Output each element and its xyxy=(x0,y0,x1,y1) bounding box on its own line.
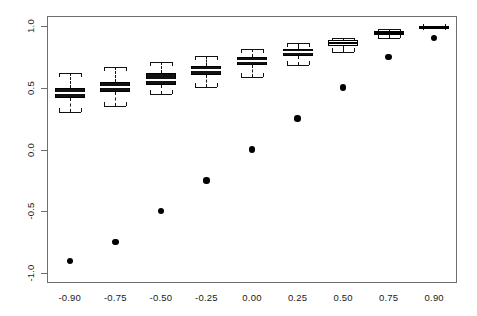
boxplot-median xyxy=(55,92,85,94)
boxplot-lower-cap xyxy=(150,94,172,95)
boxplot-lower-whisker xyxy=(252,65,253,77)
boxplot-lower-whisker xyxy=(161,85,162,95)
y-axis-tick xyxy=(41,88,47,89)
boxplot-lower-cap xyxy=(332,52,354,53)
boxplot-upper-cap-foot xyxy=(150,62,151,66)
boxplot-upper-cap xyxy=(59,73,81,74)
y-axis-tick xyxy=(41,150,47,151)
y-axis-tick xyxy=(41,211,47,212)
y-axis-tick-label: 0.0 xyxy=(24,133,38,167)
boxplot-upper-whisker xyxy=(161,62,162,73)
boxplot-median xyxy=(374,32,404,34)
data-point--0.90 xyxy=(67,258,73,264)
boxplot-upper-cap xyxy=(378,29,400,30)
boxplot-upper-cap xyxy=(287,43,309,44)
boxplot-upper-cap-foot xyxy=(172,62,173,66)
boxplot-upper-cap-foot xyxy=(241,49,242,53)
boxplot-lower-cap-foot xyxy=(126,102,127,106)
boxplot-lower-cap-foot xyxy=(354,48,355,52)
boxplot-lower-whisker xyxy=(206,75,207,87)
x-axis-tick-label: 0.90 xyxy=(404,292,464,303)
y-axis-tick-label: 0.5 xyxy=(24,71,38,105)
boxplot-median xyxy=(328,42,358,44)
boxplot-lower-cap xyxy=(104,106,126,107)
boxplot-upper-cap-foot xyxy=(59,73,60,77)
boxplot-upper-cap-foot xyxy=(309,43,310,47)
boxplot-upper-cap xyxy=(332,38,354,39)
boxplot-lower-cap-foot xyxy=(195,83,196,87)
boxplot-lower-cap-foot xyxy=(332,48,333,52)
boxplot-upper-whisker xyxy=(206,56,207,66)
boxplot-upper-cap-foot xyxy=(287,43,288,47)
boxplot-lower-whisker xyxy=(298,56,299,66)
boxplot-upper-cap xyxy=(241,49,263,50)
boxplot-lower-cap-foot xyxy=(104,102,105,106)
boxplot-lower-cap-foot xyxy=(150,90,151,94)
boxplot-lower-cap xyxy=(195,87,217,88)
data-point--0.75 xyxy=(112,239,118,245)
boxplot-median xyxy=(419,26,449,28)
data-point-0.00 xyxy=(249,146,255,152)
boxplot-upper-cap-foot xyxy=(217,56,218,60)
boxplot-upper-cap xyxy=(195,56,217,57)
boxplot-lower-whisker xyxy=(70,98,71,112)
boxplot-median xyxy=(283,51,313,53)
data-point--0.25 xyxy=(203,177,209,183)
boxplot-upper-cap xyxy=(150,62,172,63)
boxplot-upper-cap xyxy=(104,67,126,68)
boxplot-lower-cap xyxy=(59,112,81,113)
boxplot-lower-cap xyxy=(378,38,400,39)
boxplot-lower-whisker xyxy=(343,46,344,53)
y-axis-tick-label: -1.0 xyxy=(24,256,38,290)
y-axis-tick xyxy=(41,273,47,274)
boxplot-upper-whisker xyxy=(70,73,71,88)
boxplot-lower-cap-foot xyxy=(172,90,173,94)
boxplot-lower-cap-foot xyxy=(263,73,264,77)
boxplot-median xyxy=(146,79,176,81)
chart-figure: -1.0-0.50.00.51.0-0.90-0.75-0.50-0.250.0… xyxy=(0,0,477,316)
data-point-0.75 xyxy=(385,54,391,60)
boxplot-upper-whisker xyxy=(252,49,253,58)
boxplot-median xyxy=(237,60,267,62)
boxplot-median xyxy=(191,69,221,71)
boxplot-upper-cap-foot xyxy=(104,67,105,71)
boxplot-median xyxy=(100,86,130,88)
boxplot-upper-cap-foot xyxy=(126,67,127,71)
boxplot-lower-whisker xyxy=(115,92,116,106)
boxplot-lower-cap-foot xyxy=(309,61,310,65)
boxplot-lower-cap-foot xyxy=(241,73,242,77)
boxplot-upper-cap-foot xyxy=(195,56,196,60)
boxplot-upper-cap-foot xyxy=(81,73,82,77)
y-axis-tick-label: 1.0 xyxy=(24,9,38,43)
boxplot-lower-cap-foot xyxy=(287,61,288,65)
y-axis-tick xyxy=(41,26,47,27)
boxplot-lower-cap xyxy=(287,65,309,66)
data-point-0.25 xyxy=(294,115,300,121)
boxplot-lower-cap xyxy=(241,77,263,78)
boxplot-upper-whisker xyxy=(115,67,116,82)
y-axis-tick-label: -0.5 xyxy=(24,194,38,228)
boxplot-lower-cap-foot xyxy=(81,108,82,112)
boxplot-lower-cap-foot xyxy=(59,108,60,112)
boxplot-upper-cap-foot xyxy=(263,49,264,53)
boxplot-lower-cap-foot xyxy=(217,83,218,87)
